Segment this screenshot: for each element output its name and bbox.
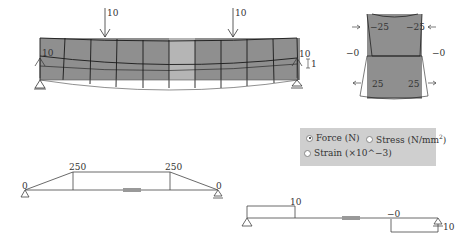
scale-marker bbox=[306, 59, 310, 68]
beam-model: 10 10 10 10 1 bbox=[34, 8, 317, 90]
radio-force[interactable] bbox=[306, 135, 313, 142]
section-bottom-right-value: 25 bbox=[408, 79, 420, 89]
roller-support-icon bbox=[434, 218, 442, 224]
radio-strain[interactable] bbox=[304, 150, 311, 157]
pin-support-icon bbox=[21, 190, 29, 197]
shear-value-2: 10 bbox=[443, 222, 455, 232]
shear-diagram bbox=[242, 206, 443, 232]
beam-midspan-marker bbox=[342, 216, 360, 220]
section-mid-right-value: −0 bbox=[432, 48, 446, 58]
moment-value-3: 0 bbox=[216, 181, 222, 191]
section-mid-left-value: −0 bbox=[346, 48, 360, 58]
pin-support-left-icon bbox=[34, 80, 46, 89]
roller-support-right-icon bbox=[291, 80, 303, 88]
option-force-label: Force (N) bbox=[316, 133, 360, 143]
load-left-label: 10 bbox=[107, 8, 119, 18]
reaction-left-label: 10 bbox=[42, 48, 54, 58]
shear-value-1: −0 bbox=[387, 209, 401, 219]
display-options-panel: Force (N) Stress (N/mm2) Strain (×10^−3) bbox=[300, 128, 436, 166]
structural-diagram-canvas: 10 10 10 10 1 bbox=[0, 0, 474, 243]
moment-diagram bbox=[21, 172, 223, 198]
reaction-right-label: 10 bbox=[299, 49, 311, 59]
beam-midspan-marker bbox=[123, 188, 141, 192]
section-top-right-value: −25 bbox=[406, 22, 425, 32]
radio-stress[interactable] bbox=[366, 136, 373, 143]
pin-support-icon bbox=[242, 218, 252, 226]
option-stress-label: Stress (N/mm2) bbox=[376, 133, 446, 145]
option-stress[interactable]: Stress (N/mm2) bbox=[366, 133, 446, 145]
option-strain-label: Strain (×10^−3) bbox=[314, 148, 392, 158]
section-bottom-left-value: 25 bbox=[372, 79, 384, 89]
section-view: −25 −25 −0 −0 25 25 bbox=[346, 14, 446, 99]
moment-value-2: 250 bbox=[165, 162, 182, 172]
option-force[interactable]: Force (N) bbox=[306, 133, 360, 143]
moment-value-1: 250 bbox=[69, 162, 86, 172]
scale-label: 1 bbox=[311, 59, 317, 69]
moment-value-0: 0 bbox=[22, 181, 28, 191]
option-strain[interactable]: Strain (×10^−3) bbox=[304, 148, 392, 158]
load-right-label: 10 bbox=[235, 8, 247, 18]
section-top-left-value: −25 bbox=[370, 22, 389, 32]
shear-value-0: 10 bbox=[290, 197, 302, 207]
